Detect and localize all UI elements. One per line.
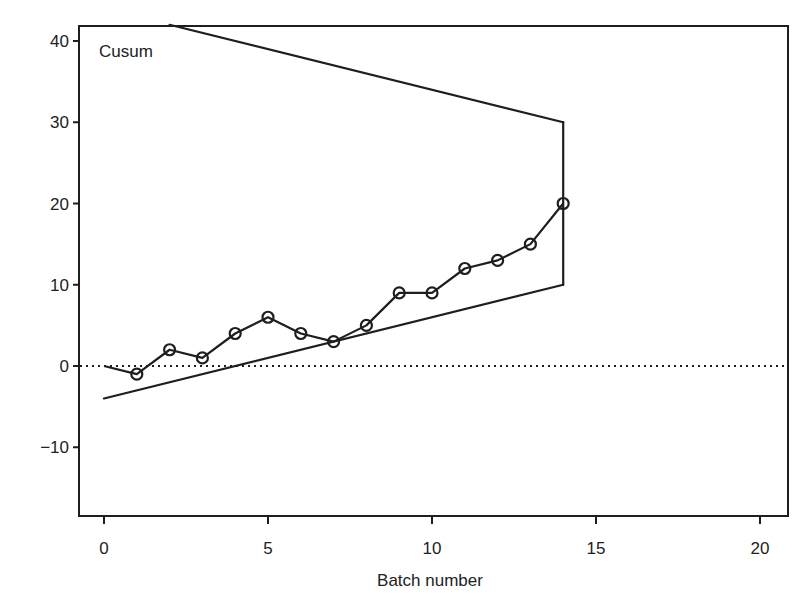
x-axis: 05101520 (99, 516, 769, 558)
plot-border (79, 26, 788, 516)
cusum-line (104, 204, 563, 375)
x-tick-label: 20 (751, 539, 770, 558)
y-axis: −10010203040 (40, 32, 79, 457)
x-axis-title: Batch number (377, 571, 483, 590)
cusum-series (104, 198, 569, 380)
x-tick-label: 15 (587, 539, 606, 558)
y-tick-label: 20 (50, 195, 69, 214)
x-tick-label: 10 (423, 539, 442, 558)
y-tick-label: −10 (40, 438, 69, 457)
y-tick-label: 30 (50, 113, 69, 132)
x-tick-label: 5 (263, 539, 272, 558)
cusum-label: Cusum (99, 42, 153, 61)
y-tick-label: 10 (50, 276, 69, 295)
plot-frame (79, 26, 788, 516)
x-tick-label: 0 (99, 539, 108, 558)
v-mask-upper-arm (170, 25, 564, 123)
y-tick-label: 40 (50, 32, 69, 51)
cusum-chart: −10010203040 05101520 Cusum Batch number (0, 0, 808, 609)
y-tick-label: 0 (60, 357, 69, 376)
